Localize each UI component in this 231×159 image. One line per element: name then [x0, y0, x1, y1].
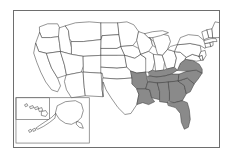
us-map-svg	[14, 11, 219, 147]
state-MN[interactable]	[118, 22, 139, 47]
hawaii-island-molokai	[35, 107, 39, 110]
hawaii-island-bigisland	[42, 111, 48, 117]
hawaii-island-maui	[39, 108, 43, 112]
map-frame-border	[13, 10, 220, 148]
hawaii-island-oahu	[30, 106, 34, 109]
inset-panel-group	[16, 98, 89, 143]
state-ME[interactable]	[212, 22, 219, 38]
state-NM[interactable]	[83, 72, 103, 97]
alaska-panhandle	[76, 121, 83, 128]
us-map-figure	[0, 0, 231, 159]
state-SD[interactable]	[101, 35, 121, 49]
state-KS[interactable]	[101, 55, 127, 68]
alaska-island-2	[29, 129, 32, 132]
state-WY[interactable]	[71, 40, 101, 57]
alaska-island-1	[33, 128, 36, 131]
state-AZ[interactable]	[65, 72, 86, 98]
state-FL[interactable]	[168, 101, 191, 130]
state-AK[interactable]	[29, 101, 83, 133]
state-HI[interactable]	[25, 104, 48, 117]
state-WA[interactable]	[40, 24, 61, 38]
state-AL[interactable]	[158, 82, 170, 103]
state-OK[interactable]	[101, 67, 132, 79]
hawaii-island-kauai	[25, 104, 28, 107]
state-MT[interactable]	[65, 22, 101, 42]
alaska-mainland	[56, 101, 84, 125]
